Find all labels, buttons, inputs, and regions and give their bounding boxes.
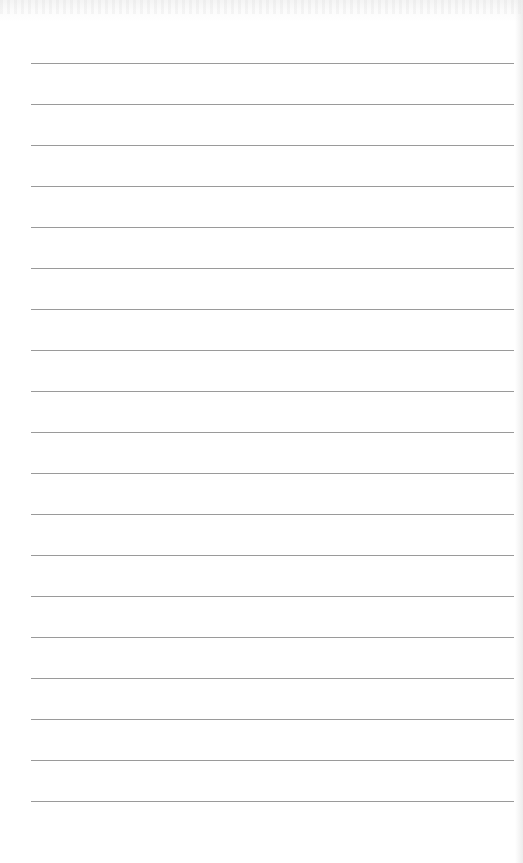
ruled-line <box>31 596 514 597</box>
ruled-line <box>31 678 514 679</box>
ruled-line <box>31 145 514 146</box>
ruled-line <box>31 268 514 269</box>
ruled-line <box>31 555 514 556</box>
ruled-line <box>31 391 514 392</box>
ruled-line <box>31 801 514 802</box>
ruled-line <box>31 473 514 474</box>
ruled-line <box>31 350 514 351</box>
ruled-line <box>31 104 514 105</box>
ruled-line <box>31 719 514 720</box>
ruled-line <box>31 63 514 64</box>
ruled-line <box>31 514 514 515</box>
ruled-line <box>31 227 514 228</box>
ruled-line <box>31 186 514 187</box>
ruled-line <box>31 309 514 310</box>
top-edge-bleed-through <box>0 0 523 14</box>
right-edge-shadow <box>515 0 523 863</box>
lined-paper-sheet <box>0 0 523 863</box>
ruled-line <box>31 432 514 433</box>
ruled-line <box>31 760 514 761</box>
ruled-line <box>31 637 514 638</box>
